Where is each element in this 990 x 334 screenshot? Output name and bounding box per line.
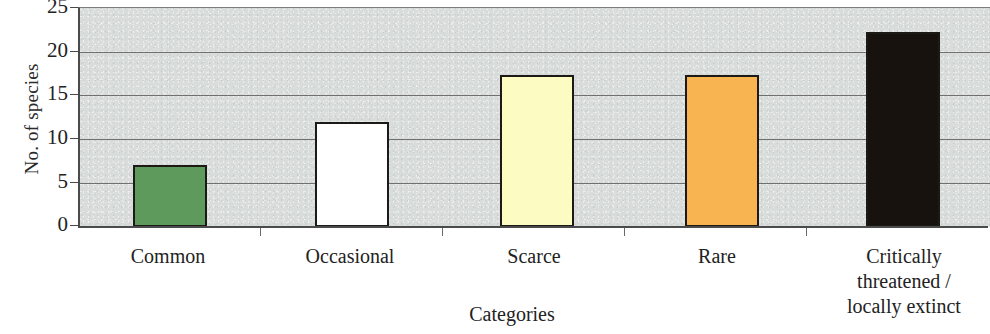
bar-rare xyxy=(685,75,759,227)
x-tick-mark-4 xyxy=(806,228,807,236)
x-tick-label-critically-threatened: Critically threatened / locally extinct xyxy=(820,244,988,319)
x-tick-label-common-line-1: Common xyxy=(88,244,248,269)
x-tick-label-critically-threatened-line-1: Critically xyxy=(820,244,988,269)
y-tick-label-10: 10 xyxy=(26,127,68,148)
x-tick-label-occasional-line-1: Occasional xyxy=(270,244,430,269)
x-tick-label-rare: Rare xyxy=(637,244,797,269)
x-tick-label-occasional: Occasional xyxy=(270,244,430,269)
bar-occasional xyxy=(315,122,389,227)
x-tick-label-common: Common xyxy=(88,244,248,269)
y-tick-label-0: 0 xyxy=(26,214,68,235)
bar-critically-threatened xyxy=(866,32,940,227)
plot-area xyxy=(78,7,990,227)
bar-scarce xyxy=(500,75,574,227)
y-axis-tick-labels: 25 20 15 10 5 0 xyxy=(26,0,68,240)
x-tick-label-scarce-line-1: Scarce xyxy=(454,244,614,269)
x-tick-mark-3 xyxy=(624,228,625,236)
x-tick-mark-1 xyxy=(260,228,261,236)
x-tick-label-rare-line-1: Rare xyxy=(637,244,797,269)
y-tick-label-15: 15 xyxy=(26,83,68,104)
x-tick-label-critically-threatened-line-2: threatened / xyxy=(820,269,988,294)
gridline-20 xyxy=(80,52,990,53)
y-tick-label-20: 20 xyxy=(26,40,68,61)
x-axis-title: Categories xyxy=(412,303,612,326)
x-tick-mark-2 xyxy=(442,228,443,236)
x-tick-label-scarce: Scarce xyxy=(454,244,614,269)
y-tick-label-25: 25 xyxy=(26,0,68,17)
bar-common xyxy=(133,165,207,227)
x-axis-line xyxy=(78,226,988,228)
y-tick-label-5: 5 xyxy=(26,171,68,192)
x-tick-label-critically-threatened-line-3: locally extinct xyxy=(820,294,988,319)
